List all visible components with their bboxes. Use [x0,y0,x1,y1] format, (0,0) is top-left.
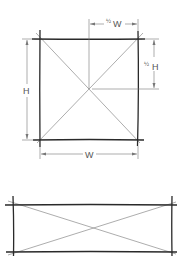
height-label: H [23,86,30,96]
arrow-icon [153,40,156,45]
half-height-label: H [152,62,159,72]
rect-diagonal-2 [8,202,176,255]
arrow-icon [132,153,137,156]
half-height-fraction: ½ [144,61,149,67]
arrow-icon [26,40,29,45]
square-bottom-edge [33,140,144,141]
rect-left-edge [13,196,14,256]
half-width-fraction: ½ [106,18,111,24]
arrow-icon [132,23,137,26]
arrow-icon [90,23,95,26]
arrow-icon [153,83,156,88]
perspective-center-diagram: ½ W ½ H H W [0,0,177,256]
square-figure: ½ W ½ H H W [22,18,159,160]
width-label: W [85,150,94,160]
square-right-edge [138,31,139,146]
rect-diagonal-1 [8,201,176,254]
rectangle-figure [5,196,177,256]
rect-top-edge [5,205,177,206]
square-diagonal-2 [37,33,143,143]
arrow-icon [26,134,29,139]
rect-bottom-edge [6,252,177,253]
half-width-label: W [113,19,122,29]
square-diagonal-1 [36,33,140,143]
arrow-icon [41,153,46,156]
